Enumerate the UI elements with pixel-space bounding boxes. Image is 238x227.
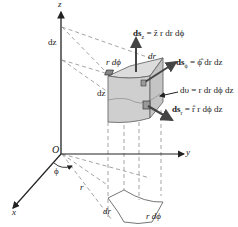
projection-lines: [62, 27, 161, 220]
ds-phi-lhs: ds: [176, 57, 185, 67]
dz-cube-label: dz: [97, 89, 106, 98]
origin-label: O: [52, 145, 59, 155]
dz-axis-label: dz: [48, 38, 57, 47]
ds-r-lhs: ds: [172, 104, 181, 114]
z-axis-label: z: [58, 0, 62, 9]
dr-base-label: dr: [103, 207, 111, 216]
r-dphi-top-label: r dϕ: [106, 58, 121, 67]
dv-equation: dυ = r dr dϕ dz: [180, 86, 234, 95]
y-axis-label: y: [186, 148, 190, 157]
ds-r-rhs: = r̂ r dϕ dz: [183, 104, 223, 114]
r-label: r: [80, 183, 84, 192]
dr-top-label: dr: [148, 52, 156, 61]
phi-label: ϕ: [54, 167, 59, 176]
x-axis: [13, 154, 61, 208]
x-axis-label: x: [12, 208, 16, 217]
ds-phi-equation: dsϕ = ϕ̂ dr dz: [176, 58, 223, 69]
ds-phi-rhs: = ϕ̂ dr dz: [188, 57, 223, 67]
ds-z-equation: dsz = ẑ r dr dϕ: [133, 29, 184, 40]
ds-z-rhs: = ẑ r dr dϕ: [144, 28, 184, 38]
ds-z-lhs: ds: [133, 28, 142, 38]
ds-r-equation: dsr = r̂ r dϕ dz: [172, 105, 223, 116]
r-dphi-base-label: r dϕ: [146, 212, 161, 221]
